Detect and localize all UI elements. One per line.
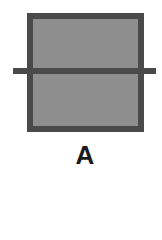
horizontal-line <box>13 68 156 74</box>
figure-label: A <box>0 142 162 168</box>
